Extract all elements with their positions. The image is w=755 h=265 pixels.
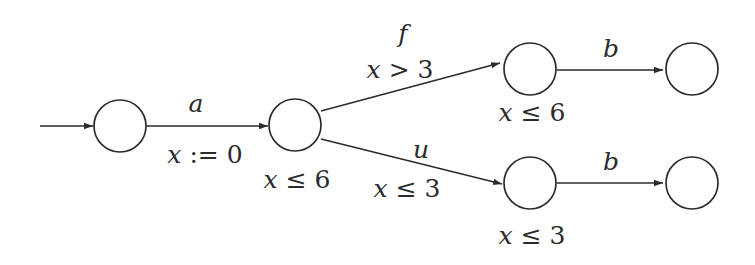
edge-q1-q4-guard-op: ≤ — [396, 174, 417, 203]
edge-q0-q1-reset-var: x — [167, 140, 181, 169]
state-q4-invariant-var: x — [499, 221, 513, 250]
edge-q1-q2-guard: x > 3 — [367, 55, 434, 84]
state-q1-invariant-val: 6 — [315, 165, 331, 194]
state-q0-initial — [94, 100, 146, 152]
edge-q0-q1-reset-val: 0 — [227, 140, 243, 169]
state-q3 — [666, 43, 718, 95]
state-q1-invariant: x ≤ 6 — [264, 165, 331, 194]
state-q5 — [666, 157, 718, 209]
state-q4-invariant-val: 3 — [550, 221, 566, 250]
state-q1-invariant-var: x — [264, 165, 278, 194]
state-q4 — [504, 157, 556, 209]
state-q2 — [504, 43, 556, 95]
state-q2-invariant-val: 6 — [550, 98, 566, 127]
edge-q1-q2-guard-op: > — [389, 55, 410, 84]
state-q2-invariant-var: x — [499, 98, 513, 127]
state-q4-invariant-op: ≤ — [521, 221, 542, 250]
edge-q0-q1-reset: x := 0 — [167, 140, 242, 169]
state-q4-invariant: x ≤ 3 — [499, 221, 566, 250]
edge-q4-q5-action: b — [603, 147, 619, 176]
edge-q0-q1-action: a — [189, 89, 204, 118]
edge-q0-q1-reset-op: := — [189, 140, 218, 169]
edge-q1-q4-guard-var: x — [374, 174, 388, 203]
state-q2-invariant: x ≤ 6 — [499, 98, 566, 127]
edge-q1-q4-guard-val: 3 — [425, 174, 441, 203]
edge-q1-q4-guard: x ≤ 3 — [374, 174, 441, 203]
edge-q1-q2-action: f — [396, 19, 411, 48]
timed-automaton-diagram: a x := 0 x ≤ 6 f x > 3 x ≤ 6 b u x ≤ 3 x… — [0, 0, 755, 265]
edge-q2-q3-action: b — [603, 34, 619, 63]
edge-q1-q2-guard-val: 3 — [418, 55, 434, 84]
edge-q1-q2-guard-var: x — [367, 55, 381, 84]
edge-q1-q4-action: u — [413, 135, 429, 164]
state-q2-invariant-op: ≤ — [521, 98, 542, 127]
state-q1-invariant-op: ≤ — [286, 165, 307, 194]
state-q1 — [269, 99, 321, 151]
